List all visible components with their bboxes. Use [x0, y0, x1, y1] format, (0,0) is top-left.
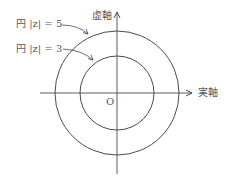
circle-3-label: 円 |z| = 3: [16, 43, 62, 55]
leader-arrow-3: [63, 49, 93, 60]
real-axis-label: 実軸: [198, 87, 218, 99]
imaginary-axis-label: 虚軸: [92, 10, 112, 22]
origin-label: O: [106, 96, 114, 108]
circle-5-label: 円 |z| = 5: [16, 18, 62, 30]
leader-arrow-5: [62, 25, 88, 34]
